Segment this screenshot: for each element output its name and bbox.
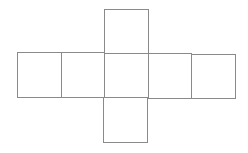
square-bottom (104, 98, 148, 143)
square-top (105, 10, 149, 54)
square-row-5 (192, 55, 236, 99)
square-center (105, 54, 149, 98)
square-row-4 (149, 54, 192, 99)
square-net-diagram (0, 0, 248, 153)
square-row-1 (18, 53, 62, 98)
square-row-2 (62, 53, 105, 98)
